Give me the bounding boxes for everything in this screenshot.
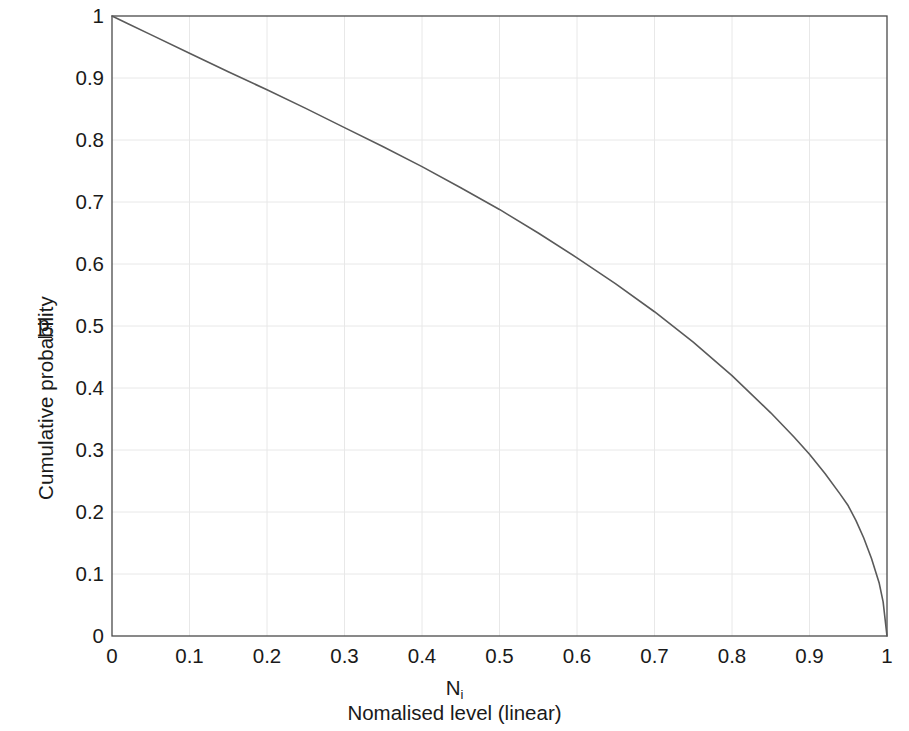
x-tick-label: 0.4 (382, 646, 462, 667)
x-tick-label: 0 (72, 646, 152, 667)
x-tick-label: 0.5 (460, 646, 540, 667)
y-axis-symbol-base: p (38, 312, 49, 335)
y-axis-symbol-subscript: i (49, 323, 52, 338)
x-axis-symbol-label: Ni (0, 678, 909, 701)
x-tick-label: 0.2 (227, 646, 307, 667)
x-tick-label: 0.9 (770, 646, 850, 667)
y-axis-symbol-label: pi (38, 312, 52, 338)
chart-figure: 00.10.20.30.40.50.60.70.80.91 00.10.20.3… (0, 0, 909, 731)
x-tick-label: 0.8 (692, 646, 772, 667)
x-tick-label: 0.1 (150, 646, 230, 667)
x-tick-label: 0.3 (305, 646, 385, 667)
x-tick-label: 0.7 (615, 646, 695, 667)
x-axis-symbol-base: N (446, 676, 461, 699)
x-tick-label: 1 (847, 646, 909, 667)
x-axis-title: Nomalised level (linear) (0, 703, 909, 724)
x-tick-label: 0.6 (537, 646, 617, 667)
x-axis-symbol-subscript: i (460, 687, 463, 702)
x-axis-tick-labels: 00.10.20.30.40.50.60.70.80.91 (0, 0, 909, 731)
